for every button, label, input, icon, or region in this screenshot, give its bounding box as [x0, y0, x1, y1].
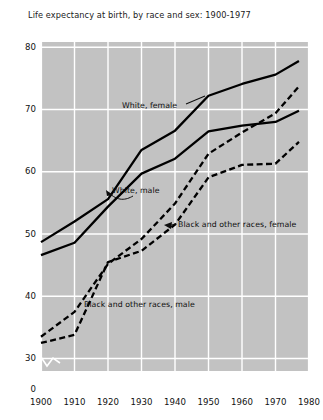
y-tick-label: 40 [8, 291, 36, 301]
x-tick-label: 1970 [260, 397, 292, 407]
y-tick-label: 70 [8, 104, 36, 114]
x-tick-label: 1980 [293, 397, 323, 407]
y-tick-label: 80 [8, 42, 36, 52]
series-annotation-label: Black and other races, male [84, 300, 195, 309]
x-tick-label: 1910 [59, 397, 91, 407]
x-tick-label: 1920 [92, 397, 124, 407]
plot-canvas [0, 0, 323, 420]
x-tick-label: 1950 [193, 397, 225, 407]
x-tick-label: 1960 [226, 397, 258, 407]
series-annotation-label: Black and other races, female [178, 220, 296, 229]
series-annotation-label: White, male [112, 186, 160, 195]
y-axis-break-label: 0 [8, 384, 36, 394]
chart-figure: Life expectancy at birth, by race and se… [0, 0, 323, 420]
x-tick-label: 1930 [126, 397, 158, 407]
y-tick-label: 50 [8, 229, 36, 239]
x-tick-label: 1900 [25, 397, 57, 407]
series-annotation-label: White, female [122, 101, 177, 110]
x-tick-label: 1940 [159, 397, 191, 407]
y-tick-label: 60 [8, 166, 36, 176]
y-tick-label: 30 [8, 353, 36, 363]
